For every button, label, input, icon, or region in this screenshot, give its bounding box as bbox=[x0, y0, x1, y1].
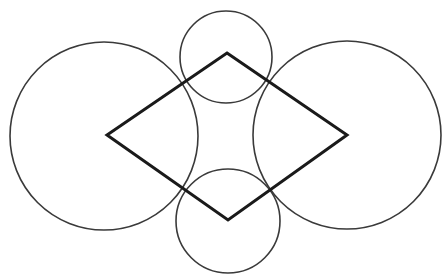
diagram-canvas bbox=[0, 0, 445, 276]
rhombus bbox=[107, 53, 347, 220]
rhombus-circles-diagram bbox=[0, 0, 445, 276]
circle-left bbox=[10, 42, 198, 230]
circle-top bbox=[180, 11, 272, 103]
